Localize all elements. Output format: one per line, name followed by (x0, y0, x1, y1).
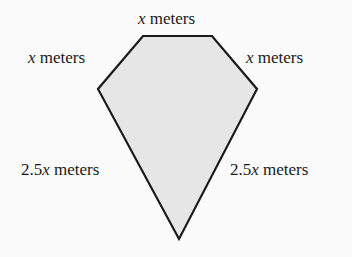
label-upper-right: x meters (245, 48, 303, 67)
pentagon-diagram: x meters x meters x meters 2.5x meters 2… (0, 0, 352, 257)
label-lower-left: 2.5x meters (21, 160, 99, 179)
pentagon-shape (98, 36, 257, 239)
label-top: x meters (137, 9, 195, 28)
diagram-canvas: x meters x meters x meters 2.5x meters 2… (0, 0, 352, 257)
label-upper-left: x meters (27, 48, 85, 67)
label-lower-right: 2.5x meters (230, 160, 308, 179)
